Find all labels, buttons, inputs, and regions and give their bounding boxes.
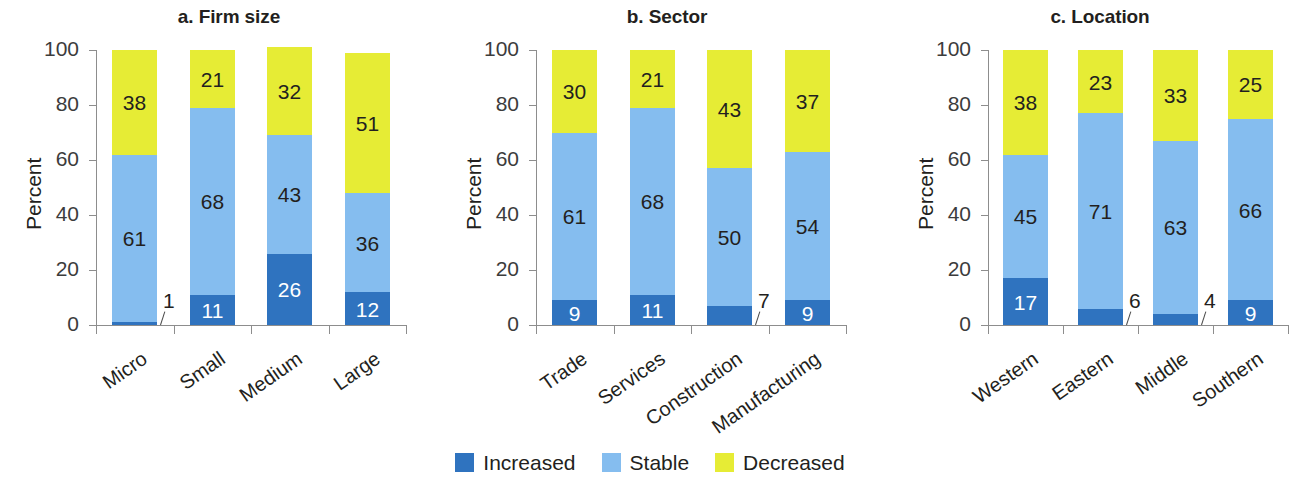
y-axis-tick: 60 [529, 160, 536, 161]
bar-segment-increased[interactable] [1153, 314, 1198, 325]
bar-segment-stable[interactable] [345, 193, 390, 292]
panel-location: c. Location Percent 020406080100174538We… [880, 0, 1300, 440]
x-axis-tick [96, 325, 97, 334]
bar-segment-decreased[interactable] [707, 50, 752, 168]
bar-segment-increased[interactable] [345, 292, 390, 325]
y-axis-tick-label: 20 [911, 257, 971, 281]
bar-middle[interactable]: 46333 [1153, 50, 1198, 325]
bar-segment-stable[interactable] [707, 168, 752, 306]
y-axis-tick: 80 [981, 105, 988, 106]
bar-eastern[interactable]: 67123 [1078, 50, 1123, 325]
y-axis-tick-label: 100 [459, 37, 519, 61]
bar-construction[interactable]: 75043 [707, 50, 752, 325]
legend-item-stable[interactable]: Stable [602, 452, 690, 473]
legend-label: Increased [483, 452, 575, 473]
bar-segment-decreased[interactable] [190, 50, 235, 108]
bar-segment-stable[interactable] [1228, 119, 1273, 301]
bar-segment-stable[interactable] [1078, 113, 1123, 308]
x-axis-tick [691, 325, 692, 334]
bar-segment-stable[interactable] [267, 135, 312, 253]
bar-segment-increased[interactable] [112, 322, 157, 325]
bar-medium[interactable]: 264332 [267, 50, 312, 325]
bar-segment-increased[interactable] [190, 295, 235, 325]
x-axis-tick [769, 325, 770, 334]
bar-large[interactable]: 123651 [345, 50, 390, 325]
panel-sector: b. Sector Percent 02040608010096130Trade… [440, 0, 880, 440]
y-axis-tick-label: 40 [19, 202, 79, 226]
bar-value-callout: 4 [1204, 289, 1216, 313]
x-axis-tick [614, 325, 615, 334]
bar-services[interactable]: 116821 [630, 50, 675, 325]
y-axis-tick-label: 60 [459, 147, 519, 171]
bar-small[interactable]: 116821 [190, 50, 235, 325]
y-axis-tick-label: 0 [459, 312, 519, 336]
panel-firm-size: a. Firm size Percent 02040608010016138Mi… [0, 0, 440, 440]
bar-segment-increased[interactable] [267, 254, 312, 326]
callout-leader-line [160, 312, 165, 326]
x-axis-tick [988, 325, 989, 334]
callout-leader-line [1126, 312, 1131, 326]
bar-segment-decreased[interactable] [1078, 50, 1123, 113]
bar-segment-increased[interactable] [707, 306, 752, 325]
bar-segment-increased[interactable] [1228, 300, 1273, 325]
y-axis-tick: 40 [981, 215, 988, 216]
y-axis-line-a [96, 50, 97, 326]
y-axis-tick-label: 0 [911, 312, 971, 336]
bar-southern[interactable]: 96625 [1228, 50, 1273, 325]
plot-area-a: 02040608010016138Micro116821Small264332M… [96, 50, 406, 325]
legend-item-increased[interactable]: Increased [455, 452, 575, 473]
bar-trade[interactable]: 96130 [552, 50, 597, 325]
y-axis-tick-label: 80 [19, 92, 79, 116]
bar-western[interactable]: 174538 [1003, 50, 1048, 325]
x-axis-tick [406, 325, 407, 334]
y-axis-tick: 100 [89, 50, 96, 51]
y-axis-tick-label: 80 [911, 92, 971, 116]
bar-segment-increased[interactable] [630, 295, 675, 325]
callout-leader-line [755, 312, 760, 326]
y-axis-tick-label: 80 [459, 92, 519, 116]
bar-segment-increased[interactable] [1003, 278, 1048, 325]
chart-legend: IncreasedStableDecreased [0, 452, 1300, 473]
bar-segment-increased[interactable] [785, 300, 830, 325]
legend-label: Stable [630, 452, 690, 473]
bar-segment-increased[interactable] [1078, 309, 1123, 326]
bar-segment-stable[interactable] [1003, 155, 1048, 279]
bar-segment-decreased[interactable] [1228, 50, 1273, 119]
bar-segment-stable[interactable] [630, 108, 675, 295]
y-axis-tick: 0 [981, 325, 988, 326]
stacked-bar-chart-figure: a. Firm size Percent 02040608010016138Mi… [0, 0, 1300, 489]
y-axis-tick: 0 [529, 325, 536, 326]
bar-value-callout: 1 [163, 289, 175, 313]
bar-manufacturing[interactable]: 95437 [785, 50, 830, 325]
bar-segment-stable[interactable] [785, 152, 830, 301]
bar-segment-stable[interactable] [190, 108, 235, 295]
y-axis-tick: 20 [89, 270, 96, 271]
bar-segment-stable[interactable] [552, 133, 597, 301]
bar-segment-decreased[interactable] [345, 53, 390, 193]
y-axis-tick-label: 20 [459, 257, 519, 281]
bar-segment-stable[interactable] [1153, 141, 1198, 314]
y-axis-tick-label: 40 [459, 202, 519, 226]
bar-segment-decreased[interactable] [267, 47, 312, 135]
bar-segment-increased[interactable] [552, 300, 597, 325]
bar-segment-decreased[interactable] [785, 50, 830, 152]
y-axis-tick: 80 [89, 105, 96, 106]
x-axis-tick [329, 325, 330, 334]
y-axis-tick-label: 20 [19, 257, 79, 281]
bar-segment-decreased[interactable] [1003, 50, 1048, 155]
x-axis-tick [1288, 325, 1289, 334]
bar-segment-decreased[interactable] [552, 50, 597, 133]
legend-item-decreased[interactable]: Decreased [715, 452, 845, 473]
bar-micro[interactable]: 16138 [112, 50, 157, 325]
y-axis-tick: 60 [981, 160, 988, 161]
panel-title-b: b. Sector [440, 6, 880, 28]
bar-segment-decreased[interactable] [112, 50, 157, 155]
y-axis-tick: 100 [981, 50, 988, 51]
bar-segment-decreased[interactable] [1153, 50, 1198, 141]
bar-segment-decreased[interactable] [630, 50, 675, 108]
y-axis-tick: 40 [89, 215, 96, 216]
y-axis-tick: 80 [529, 105, 536, 106]
legend-swatch-icon [455, 453, 474, 472]
y-axis-tick: 0 [89, 325, 96, 326]
bar-segment-stable[interactable] [112, 155, 157, 323]
